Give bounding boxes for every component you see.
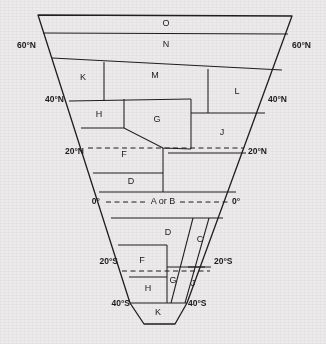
lat-label-40n-right: 40°N bbox=[268, 94, 287, 104]
zone-label-g-south: G bbox=[169, 275, 176, 285]
divider-40n bbox=[69, 99, 191, 101]
lat-label-0-right: 0° bbox=[232, 196, 241, 206]
zone-label-d-north: D bbox=[128, 176, 135, 186]
lat-label-20s-left: 20°S bbox=[99, 256, 118, 266]
zone-label-j-south: J bbox=[191, 278, 196, 288]
lat-label-60n-left: 60°N bbox=[17, 40, 36, 50]
zone-label-m: M bbox=[151, 70, 159, 80]
lat-label-40s-right: 40°S bbox=[188, 298, 207, 308]
zone-label-l: L bbox=[234, 86, 239, 96]
zone-label-f-south: F bbox=[139, 255, 145, 265]
zone-label-j-north: J bbox=[220, 127, 225, 137]
zone-label-d-south: D bbox=[165, 227, 172, 237]
zone-label-c: C bbox=[197, 234, 204, 244]
lat-label-40s-left: 40°S bbox=[111, 298, 130, 308]
divider-c-j-left-diagonal bbox=[171, 218, 193, 303]
zone-label-o: O bbox=[162, 18, 169, 28]
zone-label-h-north: H bbox=[96, 109, 103, 119]
zone-label-h-south: H bbox=[145, 283, 152, 293]
funnel-outline bbox=[38, 15, 292, 324]
divider-h-bottom bbox=[81, 128, 191, 149]
zone-label-k-south: K bbox=[155, 307, 161, 317]
zone-diagram: O N K M L H G J F D D C F G J H K A or B… bbox=[0, 0, 326, 344]
divider-c-j-right-diagonal bbox=[185, 218, 209, 303]
lat-label-60n-right: 60°N bbox=[292, 40, 311, 50]
divider-n-lower bbox=[52, 58, 282, 70]
zone-label-g-north: G bbox=[153, 114, 160, 124]
lat-label-20n-left: 20°N bbox=[65, 146, 84, 156]
lat-label-0-left: 0° bbox=[92, 196, 101, 206]
diagram-canvas: O N K M L H G J F D D C F G J H K A or B… bbox=[0, 0, 326, 344]
lat-label-40n-left: 40°N bbox=[45, 94, 64, 104]
zone-label-k-north: K bbox=[80, 72, 86, 82]
zone-label-f-north: F bbox=[121, 149, 127, 159]
lat-label-20s-right: 20°S bbox=[214, 256, 233, 266]
divider-o-n bbox=[43, 33, 288, 34]
equator-label: A or B bbox=[151, 196, 176, 206]
zone-label-n: N bbox=[163, 39, 170, 49]
lat-label-20n-right: 20°N bbox=[248, 146, 267, 156]
